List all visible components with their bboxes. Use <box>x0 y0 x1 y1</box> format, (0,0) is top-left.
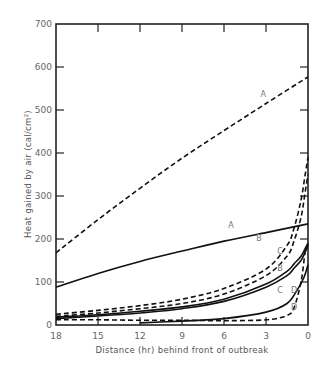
y-tick-label: 300 <box>35 191 52 201</box>
curve-b-solid <box>56 243 308 317</box>
curve-label-d: D <box>291 286 297 295</box>
curve-label-c: C <box>277 247 283 256</box>
x-tick-label: 18 <box>50 331 62 341</box>
axes: 01002003004005006007001815129630 <box>35 19 311 341</box>
x-tick-label: 6 <box>221 331 227 341</box>
x-tick-label: 12 <box>134 331 145 341</box>
y-tick-label: 600 <box>35 62 52 72</box>
curve-label-b: B <box>277 264 283 273</box>
x-tick-label: 15 <box>92 331 103 341</box>
y-tick-label: 700 <box>35 19 52 29</box>
y-axis-label: Heat gained by air (cal/cm²) <box>23 110 33 238</box>
curve-label-b: B <box>256 234 262 243</box>
curves <box>56 77 308 323</box>
curve-label-d: D <box>291 303 297 312</box>
curve-c-dashed <box>56 175 308 317</box>
curve-label-a: A <box>228 221 234 230</box>
x-tick-label: 3 <box>263 331 269 341</box>
y-tick-label: 400 <box>35 148 52 158</box>
y-tick-label: 100 <box>35 277 52 287</box>
curve-a-dashed <box>56 77 308 253</box>
chart: 01002003004005006007001815129630 AABCBCD… <box>0 0 328 371</box>
curve-a-solid <box>56 224 308 287</box>
curve-label-c: C <box>277 286 283 295</box>
plot-frame <box>56 24 308 325</box>
curve-b-dashed <box>56 157 308 314</box>
curve-label-a: A <box>260 90 266 99</box>
y-tick-label: 200 <box>35 234 52 244</box>
x-axis-label: Distance (hr) behind front of outbreak <box>95 345 268 355</box>
curve-labels: AABCBCDD <box>228 90 297 312</box>
x-tick-label: 0 <box>305 331 311 341</box>
y-tick-label: 500 <box>35 105 52 115</box>
y-tick-label: 0 <box>46 320 52 330</box>
x-tick-label: 9 <box>179 331 185 341</box>
